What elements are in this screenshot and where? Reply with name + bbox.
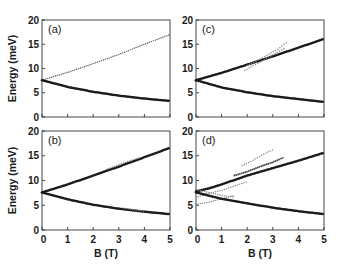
y-tick-label: 10 — [28, 63, 40, 74]
y-axis-title: Energy (meV) — [6, 35, 18, 103]
figure: 05101520(a)Energy (meV)05101520012345(b)… — [0, 0, 341, 275]
panel-c: 05101520(c) — [182, 15, 324, 123]
x-tick-label: 2 — [90, 234, 96, 245]
series-lower-branch — [195, 79, 324, 103]
series-upper-branch — [195, 152, 324, 193]
y-tick-label: 0 — [187, 225, 193, 236]
panel-b: 05101520012345(b)Energy (meV)B (T) — [6, 126, 173, 260]
y-tick-label: 20 — [28, 126, 40, 137]
y-tick-label: 15 — [28, 39, 40, 50]
x-tick-label: 5 — [167, 234, 173, 245]
y-axis-title: Energy (meV) — [6, 147, 18, 215]
y-tick-label: 15 — [182, 150, 194, 161]
series-upper-satellite — [105, 157, 139, 170]
panel-d: 05101520012345(d)B (T) — [182, 126, 327, 260]
panel-label: (a) — [48, 23, 61, 35]
series-upper-branch — [41, 147, 170, 194]
panel-a: 05101520(a)Energy (meV) — [6, 15, 170, 123]
series-lower-branch — [195, 191, 324, 215]
y-tick-label: 5 — [33, 200, 39, 211]
series-upper-branch — [195, 38, 324, 81]
y-tick-label: 10 — [182, 63, 194, 74]
y-tick-label: 5 — [33, 87, 39, 98]
x-tick-label: 1 — [219, 234, 225, 245]
series-lower-branch — [41, 191, 170, 215]
y-tick-label: 5 — [187, 200, 193, 211]
x-tick-label: 2 — [244, 234, 250, 245]
y-tick-label: 20 — [182, 15, 194, 26]
figure-caption-cutoff — [0, 268, 341, 275]
y-tick-label: 20 — [182, 126, 194, 137]
y-tick-label: 5 — [187, 87, 193, 98]
y-tick-label: 10 — [182, 175, 194, 186]
panel-label: (b) — [48, 134, 61, 146]
y-tick-label: 0 — [33, 112, 39, 123]
x-tick-label: 3 — [270, 234, 276, 245]
y-tick-label: 0 — [33, 225, 39, 236]
series-lower-branch — [41, 79, 170, 102]
y-tick-label: 20 — [28, 15, 40, 26]
x-tick-label: 5 — [321, 234, 327, 245]
x-tick-label: 4 — [296, 234, 302, 245]
y-tick-label: 10 — [28, 175, 40, 186]
x-tick-label: 1 — [65, 234, 71, 245]
series-satellite-1 — [244, 48, 285, 71]
series-upper-branch — [41, 34, 169, 81]
y-tick-label: 15 — [182, 39, 194, 50]
x-axis-title: B (T) — [248, 247, 272, 259]
panel-label: (d) — [202, 134, 215, 146]
y-tick-label: 15 — [28, 150, 40, 161]
x-tick-label: 3 — [116, 234, 122, 245]
x-axis-title: B (T) — [94, 247, 118, 259]
panel-label: (c) — [202, 23, 215, 35]
x-tick-label: 0 — [41, 234, 47, 245]
y-tick-label: 0 — [187, 112, 193, 123]
x-tick-label: 0 — [195, 234, 201, 245]
plot-frame — [196, 20, 324, 117]
x-tick-label: 4 — [142, 234, 148, 245]
